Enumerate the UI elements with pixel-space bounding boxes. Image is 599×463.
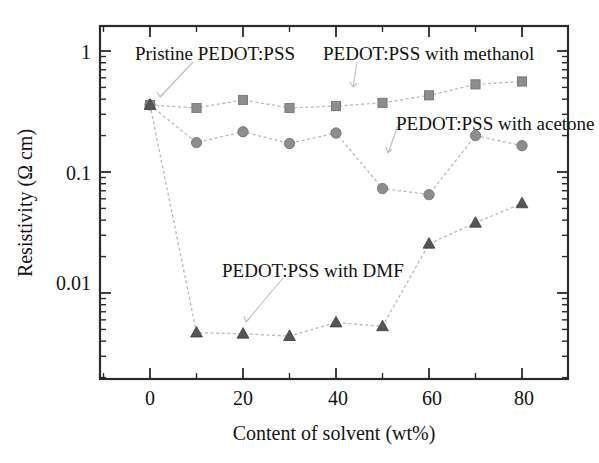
y-tick-label-0p1: 0.1: [66, 162, 91, 184]
data-point-triangle: [470, 217, 482, 228]
data-point-circle: [377, 183, 387, 193]
x-tick-label-80: 80: [514, 387, 534, 409]
y-tick-label-0p01: 0.01: [56, 272, 91, 294]
x-axis-title: Content of solvent (wt%): [233, 422, 436, 445]
y-axis-title: Resistivity (Ω cm): [14, 129, 37, 277]
data-point-square: [238, 95, 247, 104]
leader-arrow-dmf: [244, 316, 250, 322]
data-point-triangle: [423, 238, 435, 249]
data-point-square: [471, 80, 480, 89]
y-axis-ticks: [100, 51, 568, 378]
data-point-triangle: [284, 330, 296, 341]
series-line-triangle: [150, 105, 522, 336]
resistivity-vs-solvent-content-figure: 1 0.1 0.01 0 20 40 60 80 Content of solv…: [0, 0, 599, 463]
data-point-circle: [517, 140, 527, 150]
data-point-circle: [238, 127, 248, 137]
x-tick-label-60: 60: [422, 387, 442, 409]
y-tick-label-1: 1: [81, 41, 91, 63]
x-tick-label-20: 20: [233, 387, 253, 409]
data-point-triangle: [330, 316, 342, 327]
chart-canvas: 1 0.1 0.01 0 20 40 60 80 Content of solv…: [0, 0, 599, 463]
annotation-pristine: Pristine PEDOT:PSS: [135, 43, 295, 64]
data-point-circle: [331, 128, 341, 138]
x-axis-ticks: [104, 26, 523, 379]
data-point-square: [331, 101, 340, 110]
data-point-circle: [191, 137, 201, 147]
leader-line-dmf: [246, 278, 283, 322]
annotation-acetone: PEDOT:PSS with acetone: [396, 113, 595, 134]
data-point-square: [424, 91, 433, 100]
leader-arrow-pristine: [157, 92, 164, 97]
data-point-circle: [424, 189, 434, 199]
data-point-triangle: [516, 197, 528, 208]
data-point-square: [285, 103, 294, 112]
data-point-triangle: [237, 328, 249, 339]
x-tick-label-40: 40: [328, 387, 348, 409]
data-point-square: [192, 103, 201, 112]
data-point-square: [517, 77, 526, 86]
annotation-dmf: PEDOT:PSS with DMF: [222, 260, 404, 281]
leader-line-pristine: [160, 62, 193, 97]
data-point-triangle: [191, 326, 203, 337]
data-point-circle: [284, 138, 294, 148]
x-tick-label-0: 0: [145, 387, 155, 409]
data-point-square: [378, 98, 387, 107]
annotation-methanol: PEDOT:PSS with methanol: [323, 43, 534, 64]
